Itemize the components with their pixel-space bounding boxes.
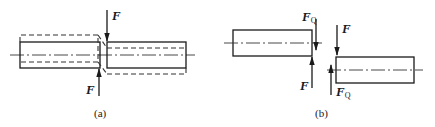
bar-left-dashed-outline xyxy=(20,35,98,62)
force-label-right: F xyxy=(341,21,351,36)
force-label-top: F xyxy=(111,8,121,23)
shear-diagram: F F (a) FQ F F FQ (b) xyxy=(0,0,435,127)
force-label-bottom: F xyxy=(85,82,95,97)
caption-b: (b) xyxy=(315,107,328,120)
caption-a: (a) xyxy=(94,107,107,120)
figure-b: FQ F F FQ (b) xyxy=(224,9,423,120)
shear-label-right: FQ xyxy=(335,84,351,100)
force-label-left: F xyxy=(299,78,309,93)
bar-right-dashed-outline xyxy=(107,68,186,74)
shear-label-left: FQ xyxy=(301,9,317,25)
figure-a: F F (a) xyxy=(10,8,195,120)
